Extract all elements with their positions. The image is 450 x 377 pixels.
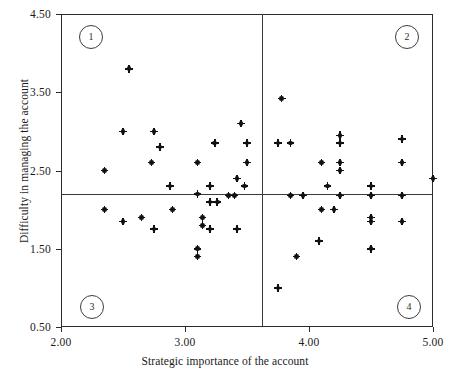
data-point (239, 121, 244, 126)
data-point (121, 129, 126, 134)
data-point (121, 219, 126, 224)
x-tick-mark (433, 327, 434, 332)
y-tick-mark (56, 171, 61, 172)
data-point (208, 200, 213, 205)
vertical-reference-line (262, 14, 263, 327)
x-tick-mark (185, 327, 186, 332)
y-tick-mark (56, 14, 61, 15)
data-point (102, 207, 107, 212)
data-point (149, 160, 154, 165)
y-tick-mark (56, 92, 61, 93)
data-point (215, 200, 220, 205)
data-point (288, 141, 293, 146)
x-axis-title: Strategic importance of the account (0, 355, 450, 367)
data-point (288, 193, 293, 198)
data-point (102, 168, 107, 173)
data-point (200, 223, 205, 228)
x-tick-label: 2.00 (31, 336, 91, 348)
data-point (195, 254, 200, 259)
x-tick-mark (309, 327, 310, 332)
data-point (279, 96, 284, 101)
data-point (400, 193, 405, 198)
y-axis-title: Difficulty in managing the account (18, 51, 30, 271)
y-tick-label: 0.50 (9, 321, 51, 333)
y-tick-label: 2.50 (9, 165, 51, 177)
data-point (294, 254, 299, 259)
data-point (195, 160, 200, 165)
data-point (332, 207, 337, 212)
quadrant-badge-2: 2 (395, 25, 419, 49)
y-tick-label: 1.50 (9, 243, 51, 255)
data-point (170, 207, 175, 212)
data-point (232, 193, 237, 198)
x-tick-mark (61, 327, 62, 332)
quadrant-badge-3: 3 (80, 295, 104, 319)
y-tick-mark (56, 249, 61, 250)
data-point (195, 246, 200, 251)
x-tick-label: 3.00 (155, 336, 215, 348)
data-point (369, 193, 374, 198)
data-point (139, 215, 144, 220)
data-point (235, 176, 240, 181)
data-point (319, 160, 324, 165)
quadrant-badge-1: 1 (79, 25, 103, 49)
scatter-plot-figure: 0.501.502.503.504.50 2.003.004.005.00 1 … (0, 0, 450, 377)
plot-area (61, 14, 433, 327)
data-point (195, 192, 200, 197)
y-tick-label: 4.50 (9, 8, 51, 20)
y-tick-label: 3.50 (9, 86, 51, 98)
horizontal-reference-line (61, 194, 433, 195)
data-point (431, 176, 436, 181)
x-tick-label: 5.00 (403, 336, 450, 348)
data-point (200, 215, 205, 220)
data-point (338, 133, 343, 138)
data-point (338, 168, 343, 173)
data-point (338, 193, 343, 198)
data-point (152, 129, 157, 134)
quadrant-badge-4: 4 (397, 295, 421, 319)
data-point (319, 207, 324, 212)
data-point (369, 219, 374, 224)
data-point (400, 219, 405, 224)
data-point (301, 193, 306, 198)
x-tick-label: 4.00 (279, 336, 339, 348)
